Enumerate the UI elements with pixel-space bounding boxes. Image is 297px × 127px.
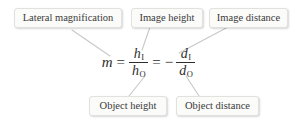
- callout-object-height-label: Object height: [100, 101, 157, 112]
- callout-object-distance: Object distance: [176, 96, 259, 116]
- symbol-image-height: h: [134, 46, 141, 61]
- magnification-formula-figure: Lateral magnification Image height Image…: [0, 0, 297, 127]
- callout-lateral-magnification: Lateral magnification: [14, 8, 122, 28]
- callout-image-distance: Image distance: [209, 8, 288, 28]
- subscript-object-height: O: [140, 69, 146, 79]
- connector-object-distance: [186, 76, 199, 96]
- fraction-heights: hI hO: [129, 46, 148, 79]
- minus-sign: −: [165, 55, 173, 70]
- equals-sign-2: =: [151, 55, 161, 70]
- subscript-object-distance: O: [187, 69, 193, 79]
- image-height-term: hI: [131, 46, 147, 62]
- object-distance-term: dO: [176, 63, 195, 79]
- callout-image-distance-label: Image distance: [217, 13, 280, 24]
- symbol-object-height: h: [132, 63, 139, 78]
- symbol-magnification: m: [102, 55, 113, 70]
- callout-object-distance-label: Object distance: [185, 101, 250, 112]
- equals-sign-1: =: [116, 55, 126, 70]
- subscript-image-height: I: [141, 52, 144, 62]
- callout-image-height-label: Image height: [139, 13, 194, 24]
- callout-image-height: Image height: [131, 8, 203, 28]
- object-height-term: hO: [129, 63, 148, 79]
- symbol-object-distance: d: [179, 63, 186, 78]
- connector-object-height: [129, 76, 145, 96]
- symbol-image-distance: d: [181, 46, 188, 61]
- fraction-distances: dI dO: [176, 46, 195, 79]
- magnification-equation: m = hI hO = − dI dO: [0, 46, 297, 79]
- callout-lateral-magnification-label: Lateral magnification: [23, 13, 114, 24]
- subscript-image-distance: I: [188, 52, 191, 62]
- callout-object-height: Object height: [89, 96, 167, 116]
- image-distance-term: dI: [178, 46, 194, 62]
